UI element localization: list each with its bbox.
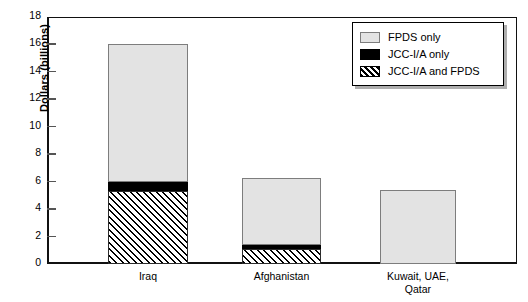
y-tick-label: 16 (11, 36, 41, 48)
x-axis-label-3: Kuwait, UAE,Qatar (348, 270, 488, 296)
y-tick-mark (47, 98, 56, 100)
segment-jcc-ia-only (242, 245, 321, 249)
light-gray-swatch (360, 32, 380, 43)
x-axis-label-line: Afghanistan (212, 270, 352, 283)
hatched-swatch (360, 66, 380, 77)
x-axis-label-line: Qatar (348, 283, 488, 296)
y-tick-label: 18 (11, 9, 41, 21)
y-tick-label: 2 (11, 229, 41, 241)
y-tick-mark (47, 71, 56, 73)
legend-label: JCC-I/A and FPDS (388, 65, 480, 77)
segment-jcc-ia-only (108, 182, 188, 192)
chart-legend: FPDS onlyJCC-I/A onlyJCC-I/A and FPDS (352, 22, 504, 86)
segment-fpds-only (380, 190, 456, 264)
y-tick-mark (47, 126, 56, 128)
y-tick-label: 12 (11, 91, 41, 103)
black-swatch (360, 49, 380, 60)
segment-fpds-only (108, 44, 188, 181)
y-tick-label: 10 (11, 119, 41, 131)
y-tick-label: 4 (11, 201, 41, 213)
legend-label: JCC-I/A only (388, 48, 449, 60)
legend-item-3: JCC-I/A and FPDS (360, 63, 497, 79)
legend-label: FPDS only (388, 31, 441, 43)
legend-item-2: JCC-I/A only (360, 46, 497, 62)
x-axis-label-1: Iraq (78, 270, 218, 283)
bar-kuwait-uae-qatar (380, 190, 456, 264)
bar-afghanistan (242, 178, 321, 264)
x-axis-label-2: Afghanistan (212, 270, 352, 283)
y-tick-mark (47, 181, 56, 183)
x-axis-label-line: Iraq (78, 270, 218, 283)
bar-iraq (108, 44, 188, 264)
y-tick-mark (47, 153, 56, 155)
segment-jcc-ia-and-fpds (108, 191, 188, 264)
y-tick-label: 0 (11, 256, 41, 268)
y-tick-mark (47, 236, 56, 238)
y-tick-mark (47, 43, 56, 45)
bar-chart-figure: Dollars (billions) 024681012141618 IraqA… (0, 0, 528, 302)
legend-item-1: FPDS only (360, 29, 497, 45)
y-tick-label: 14 (11, 64, 41, 76)
y-tick-mark (47, 208, 56, 210)
segment-jcc-ia-and-fpds (242, 249, 321, 264)
y-tick-label: 6 (11, 174, 41, 186)
y-tick-label: 8 (11, 146, 41, 158)
segment-fpds-only (242, 178, 321, 245)
x-axis-label-line: Kuwait, UAE, (348, 270, 488, 283)
